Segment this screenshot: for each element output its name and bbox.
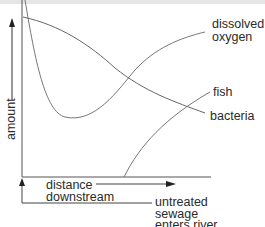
x-label-downstream: downstream: [46, 191, 114, 203]
right-arrow-icon: [166, 181, 176, 187]
dissolved-oxygen-curve: [25, 0, 205, 118]
label-oxygen: oxygen: [212, 31, 252, 43]
label-dissolved: dissolved: [212, 18, 264, 30]
bacteria-curve: [23, 17, 205, 113]
fish-curve: [124, 92, 210, 177]
label-fish: fish: [213, 86, 232, 98]
y-axis-label: amount: [4, 98, 18, 140]
label-bacteria: bacteria: [210, 110, 254, 122]
event-label-enters-river: enters river: [155, 219, 218, 227]
sewage-up-arrow-icon: [19, 178, 25, 186]
up-arrow-icon: [9, 18, 15, 27]
